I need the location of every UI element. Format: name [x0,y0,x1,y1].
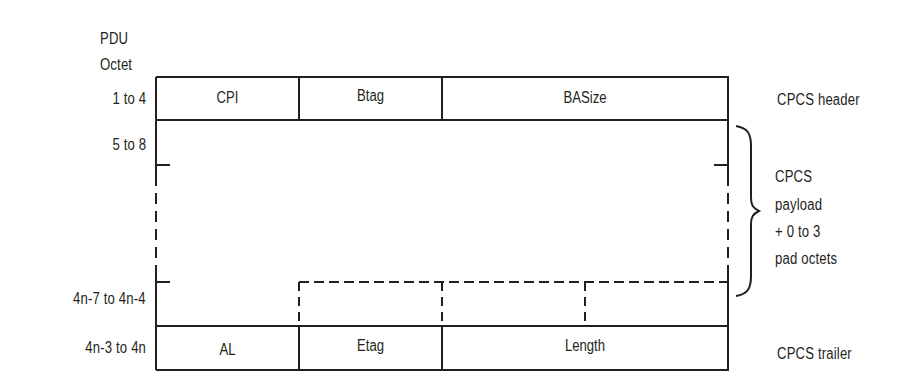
annotation-payload-line3: + 0 to 3 [775,223,820,241]
header-field-btag: Btag [312,87,429,105]
annotation-payload-line4: pad octets [775,250,837,268]
trailer-field-length: Length [468,337,703,355]
header-field-cpi: CPI [169,89,286,107]
annotation-cpcs-header: CPCS header [777,91,860,109]
payload-brace-icon [736,126,759,296]
trailer-field-etag: Etag [312,337,429,355]
header-field-basize: BASize [468,89,703,107]
trailer-field-al: AL [169,341,286,359]
annotation-payload-line1: CPCS [775,168,812,186]
annotation-cpcs-trailer: CPCS trailer [777,345,852,363]
pdu-frame [0,0,924,390]
annotation-payload-line2: payload [775,196,822,214]
